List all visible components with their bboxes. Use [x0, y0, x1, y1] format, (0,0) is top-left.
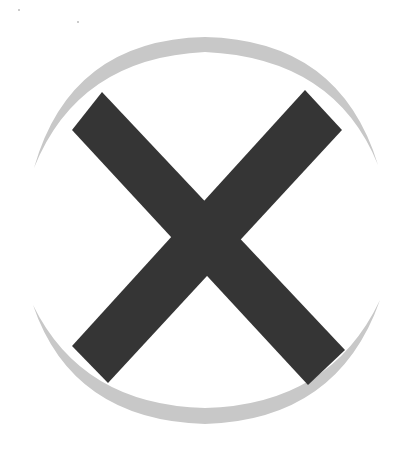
scan-speck: [77, 21, 79, 23]
close-icon: [0, 0, 407, 460]
scan-speck: [18, 9, 20, 11]
cross-shape: [72, 90, 345, 385]
ring-top-arc: [34, 37, 378, 168]
